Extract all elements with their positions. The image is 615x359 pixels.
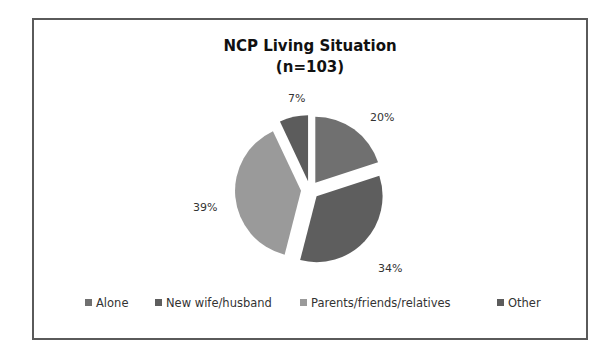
- pie-slice-parents-friends-relatives: [235, 131, 301, 255]
- label-new: 34%: [378, 262, 402, 275]
- legend-swatch: [300, 299, 307, 306]
- label-parents: 39%: [193, 201, 217, 214]
- pie-slice-new-wife-husband: [300, 176, 382, 262]
- legend-item-parents: Parents/friends/relatives: [300, 296, 451, 310]
- legend-swatch: [155, 299, 162, 306]
- legend-item-alone: Alone: [85, 296, 128, 310]
- legend-item-new: New wife/husband: [155, 296, 272, 310]
- pie-slice-alone: [315, 117, 378, 183]
- label-other: 7%: [288, 92, 305, 105]
- legend-item-other: Other: [497, 296, 541, 310]
- legend-swatch: [497, 299, 504, 306]
- legend-swatch: [85, 299, 92, 306]
- label-alone: 20%: [370, 111, 394, 124]
